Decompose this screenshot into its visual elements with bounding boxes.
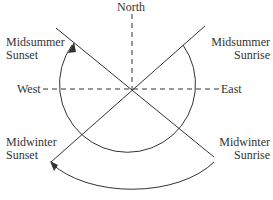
midsummer-sunset-midwinter-sunrise-line [56,28,214,157]
midwinter-sunset-label: Midwinter Sunset [6,136,57,162]
sun-directions-diagram [0,0,273,200]
midsummer-sunset-line2: Sunset [6,49,65,62]
midsummer-sunrise-line2: Sunrise [211,49,270,62]
midwinter-sunrise-label: Midwinter Sunrise [219,136,270,162]
east-label: East [221,83,242,96]
midwinter-sunset-line2: Sunset [6,149,57,162]
midwinter-sunrise-line2: Sunrise [219,149,270,162]
midsummer-sunset-label: Midsummer Sunset [6,36,65,62]
midwinter-sun-path-arc [51,162,214,189]
arrowhead-midwinter-icon [50,161,58,171]
north-label: North [117,1,145,14]
west-label: West [17,83,41,96]
midsummer-sunrise-label: Midsummer Sunrise [211,36,270,62]
